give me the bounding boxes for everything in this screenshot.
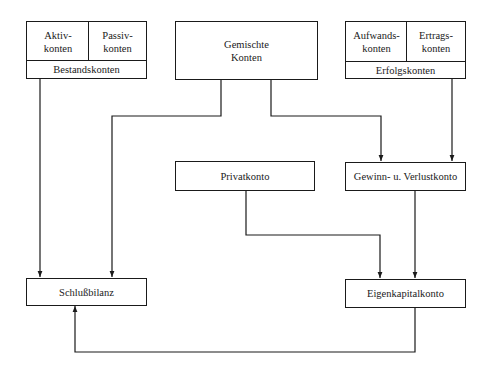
aufwandskonten-cell: Aufwands- konten: [346, 22, 407, 62]
privatkonto-label: Privatkonto: [176, 162, 314, 190]
erfolgskonten-box: Aufwands- konten Ertrags- konten Erfolgs…: [345, 21, 466, 79]
guv-konto-label: Gewinn- u. Verlustkonto: [346, 163, 465, 190]
eigenkapitalkonto-label: Eigenkapitalkonto: [346, 280, 465, 307]
aktivkonten-cell: Aktiv- konten: [27, 22, 89, 61]
schlussbilanz-box: Schlußbilanz: [26, 278, 147, 306]
eigenkapitalkonto-box: Eigenkapitalkonto: [345, 279, 466, 308]
bestandskonten-label: Bestandskonten: [27, 61, 146, 78]
privatkonto-box: Privatkonto: [175, 161, 315, 191]
gemischte-konten-box: Gemischte Konten: [175, 21, 318, 80]
edge-eigenkapital-to-schlussbilanz: [75, 306, 415, 352]
passivkonten-cell: Passiv- konten: [89, 22, 146, 61]
guv-konto-box: Gewinn- u. Verlustkonto: [345, 162, 466, 191]
gemischte-konten-label: Gemischte Konten: [176, 22, 317, 79]
bestandskonten-box: Aktiv- konten Passiv- konten Bestandskon…: [26, 21, 147, 79]
ertragskonten-cell: Ertrags- konten: [407, 22, 465, 62]
schlussbilanz-label: Schlußbilanz: [27, 279, 146, 305]
erfolgskonten-label: Erfolgskonten: [346, 62, 465, 78]
edge-privat-to-eigenkapital: [246, 190, 380, 278]
edge-gemischt-to-guv: [271, 79, 381, 161]
